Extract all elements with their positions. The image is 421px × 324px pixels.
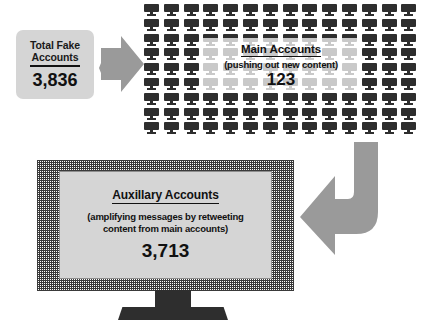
monitor-icon xyxy=(362,48,377,60)
monitor-icon xyxy=(382,48,397,60)
monitor-icon xyxy=(184,19,199,31)
monitor-icon xyxy=(164,122,179,134)
monitor-icon xyxy=(144,4,159,16)
total-title-line-1: Total Fake xyxy=(30,39,80,51)
monitor-icon xyxy=(223,108,238,120)
auxillary-accounts-title: Auxillary Accounts xyxy=(112,188,218,203)
monitor-icon xyxy=(322,108,337,120)
monitor-icon xyxy=(223,93,238,105)
monitor-icon xyxy=(382,93,397,105)
monitor-icon xyxy=(243,4,258,16)
monitor-icon xyxy=(164,63,179,75)
monitor-icon xyxy=(223,19,238,31)
monitor-icon xyxy=(362,108,377,120)
monitor-icon xyxy=(184,78,199,90)
main-accounts-label: Main Accounts (pushing out new content) … xyxy=(202,38,360,91)
monitor-icon xyxy=(283,122,298,134)
total-fake-accounts-value: 3,836 xyxy=(32,71,77,89)
monitor-icon xyxy=(342,93,357,105)
monitor-icon xyxy=(243,122,258,134)
monitor-icon xyxy=(382,78,397,90)
monitor-icon xyxy=(382,63,397,75)
monitor-icon xyxy=(342,122,357,134)
monitor-icon xyxy=(401,4,416,16)
monitor-icon xyxy=(184,48,199,60)
monitor-icon xyxy=(203,4,218,16)
monitor-icon xyxy=(263,19,278,31)
monitor-icon xyxy=(164,4,179,16)
monitor-icon xyxy=(401,93,416,105)
monitor-icon xyxy=(362,4,377,16)
monitor-icon xyxy=(184,108,199,120)
monitor-icon xyxy=(144,63,159,75)
monitor-icon xyxy=(342,4,357,16)
monitor-icon xyxy=(283,19,298,31)
monitor-icon xyxy=(263,4,278,16)
monitor-icon xyxy=(144,108,159,120)
monitor-icon xyxy=(401,48,416,60)
monitor-icon xyxy=(164,78,179,90)
monitor-icon xyxy=(184,34,199,46)
monitor-icon xyxy=(223,4,238,16)
arrow-right-icon xyxy=(99,35,145,93)
monitor-icon xyxy=(362,19,377,31)
main-accounts-subtitle: (pushing out new content) xyxy=(224,60,338,70)
monitor-icon xyxy=(144,19,159,31)
monitor-icon xyxy=(302,122,317,134)
total-fake-accounts-title: Total Fake Accounts xyxy=(30,40,80,67)
monitor-icon xyxy=(401,19,416,31)
monitor-icon xyxy=(362,93,377,105)
monitor-icon xyxy=(144,48,159,60)
monitor-icon xyxy=(302,93,317,105)
infographic-canvas: Total Fake Accounts 3,836 Main Accounts … xyxy=(0,0,421,324)
monitor-stand-base xyxy=(118,307,228,320)
total-fake-accounts-card: Total Fake Accounts 3,836 xyxy=(16,30,94,99)
monitor-icon xyxy=(382,34,397,46)
monitor-icon xyxy=(263,93,278,105)
monitor-icon xyxy=(164,34,179,46)
monitor-icon xyxy=(164,93,179,105)
monitor-icon xyxy=(203,108,218,120)
monitor-icon xyxy=(144,34,159,46)
monitor-icon xyxy=(164,108,179,120)
monitor-icon xyxy=(144,78,159,90)
monitor-icon xyxy=(283,4,298,16)
monitor-icon xyxy=(401,34,416,46)
monitor-icon xyxy=(362,63,377,75)
monitor-icon xyxy=(382,4,397,16)
monitor-icon xyxy=(144,122,159,134)
monitor-icon xyxy=(382,122,397,134)
monitor-icon xyxy=(401,63,416,75)
auxillary-accounts-value: 3,713 xyxy=(142,241,190,260)
monitor-icon xyxy=(164,19,179,31)
monitor-icon xyxy=(203,19,218,31)
monitor-icon xyxy=(203,122,218,134)
monitor-icon xyxy=(382,19,397,31)
monitor-stand-neck xyxy=(155,290,191,308)
monitor-icon xyxy=(362,78,377,90)
total-title-line-2: Accounts xyxy=(30,52,80,67)
monitor-icon xyxy=(184,4,199,16)
monitor-icon xyxy=(362,34,377,46)
monitor-icon xyxy=(401,78,416,90)
main-accounts-value: 123 xyxy=(267,71,295,88)
monitor-icon xyxy=(302,19,317,31)
monitor-icon xyxy=(322,19,337,31)
monitor-icon xyxy=(184,122,199,134)
monitor-icon xyxy=(243,19,258,31)
monitor-icon xyxy=(382,108,397,120)
monitor-icon xyxy=(283,108,298,120)
monitor-icon xyxy=(243,108,258,120)
monitor-icon xyxy=(144,93,159,105)
monitor-icon xyxy=(362,122,377,134)
monitor-icon xyxy=(401,108,416,120)
monitor-icon xyxy=(322,122,337,134)
monitor-icon xyxy=(164,48,179,60)
monitor-icon xyxy=(401,122,416,134)
monitor-icon xyxy=(203,93,218,105)
auxillary-subtitle-line-1: (amplifying messages by retweeting xyxy=(87,211,243,222)
monitor-screen: Auxillary Accounts (amplifying messages … xyxy=(59,171,272,279)
monitor-icon xyxy=(342,108,357,120)
monitor-icon xyxy=(263,122,278,134)
monitor-icon xyxy=(283,93,298,105)
